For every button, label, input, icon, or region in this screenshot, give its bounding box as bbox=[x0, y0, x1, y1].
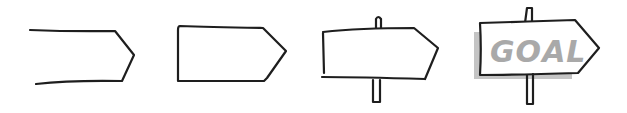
sign-text: GOAL bbox=[490, 34, 586, 69]
step-4-goal-sign: GOAL bbox=[474, 8, 599, 104]
signpost-sketch-sequence: GOAL bbox=[0, 0, 627, 113]
step-3-board-with-post bbox=[322, 17, 438, 102]
step-1-open-arrow bbox=[30, 30, 134, 84]
step-2-closed-board bbox=[178, 26, 286, 81]
